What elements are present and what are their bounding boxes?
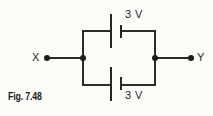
top-cell-negative-plate [120,25,122,38]
right-lead-wire [155,57,191,59]
terminal-label-y: Y [197,52,204,63]
top-branch-right-wire [120,30,156,32]
top-branch-left-wire [82,30,111,32]
figure-caption: Fig. 7.48 [8,92,42,102]
top-cell-positive-plate [110,14,112,48]
left-lead-wire [47,57,83,59]
junction-dot-right [152,55,158,61]
circuit-figure: 3 V 3 V X Y Fig. 7.48 [0,0,213,116]
bottom-cell-negative-plate [120,77,122,90]
bottom-branch-left-wire [82,84,111,86]
terminal-dot-x [44,55,50,61]
bottom-branch-right-wire [120,84,156,86]
terminal-label-x: X [32,52,39,63]
top-cell-voltage-label: 3 V [125,9,143,20]
bottom-cell-voltage-label: 3 V [125,90,143,101]
bottom-cell-positive-plate [110,67,112,101]
junction-dot-left [80,55,86,61]
terminal-dot-y [188,55,194,61]
